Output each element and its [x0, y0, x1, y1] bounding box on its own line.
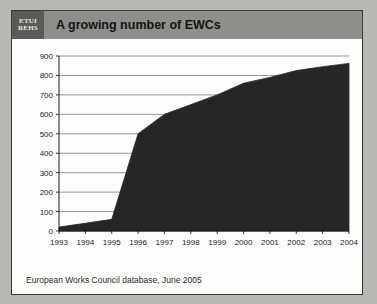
figure-panel: ETUI REHS A growing number of EWCs 01002… [11, 10, 363, 295]
x-axis-tick-label: 1997 [156, 238, 174, 247]
x-axis-tick-label: 2000 [235, 238, 253, 247]
x-axis-tick-label: 1993 [50, 238, 68, 247]
chart-title: A growing number of EWCs [56, 18, 221, 32]
x-axis-tick-label: 2001 [261, 238, 279, 247]
x-axis-tick-label: 1998 [182, 238, 200, 247]
etui-rehs-logo: ETUI REHS [12, 11, 44, 39]
caption-separator [12, 267, 362, 268]
x-axis-tick-label: 2002 [287, 238, 305, 247]
y-axis-tick-label: 500 [40, 130, 54, 139]
x-axis-tick-label: 1995 [103, 238, 121, 247]
logo-line-2: REHS [18, 25, 38, 32]
area-chart-svg: 0100200300400500600700800900 19931994199… [12, 39, 362, 267]
chart-plot-area: 0100200300400500600700800900 19931994199… [12, 39, 362, 267]
y-axis-tick-label: 100 [40, 208, 54, 217]
area-series-ewc-count [59, 63, 349, 231]
y-axis-tick-label: 200 [40, 188, 54, 197]
y-axis-tick-label: 800 [40, 71, 54, 80]
y-axis-tick-labels: 0100200300400500600700800900 [40, 52, 54, 236]
y-axis-tick-label: 0 [49, 227, 54, 236]
y-axis-tick-label: 900 [40, 52, 54, 61]
chart-source-caption: European Works Council database, June 20… [26, 275, 202, 285]
y-axis-tick-label: 700 [40, 91, 54, 100]
y-axis-tick-label: 400 [40, 149, 54, 158]
x-axis-tick-label: 1994 [76, 238, 94, 247]
x-axis-tick-label: 1999 [208, 238, 226, 247]
x-axis-tick-label: 2003 [314, 238, 332, 247]
x-axis-tick-label: 1996 [129, 238, 147, 247]
y-axis-tick-label: 300 [40, 169, 54, 178]
chart-header-bar: ETUI REHS A growing number of EWCs [12, 11, 362, 39]
x-axis-tick-label: 2004 [340, 238, 358, 247]
x-axis-tick-labels: 1993199419951996199719981999200020012002… [50, 238, 358, 247]
y-axis-tick-label: 600 [40, 110, 54, 119]
screenshot-root: ETUI REHS A growing number of EWCs 01002… [0, 0, 377, 304]
